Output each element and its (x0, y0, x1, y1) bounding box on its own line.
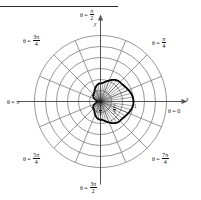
y-axis-label: y (94, 21, 96, 27)
polar-figure: θ = 0 θ = π4 θ = π2 θ = 3π4 θ = π θ = 5π… (0, 0, 201, 200)
radial-label-two-thirds: 23 (112, 104, 117, 116)
angle-label-theta-pi-4: θ = π4 (152, 36, 166, 49)
radial-label-one-third: 13 (98, 105, 103, 117)
angle-label-theta-3pi-4: θ = 3π4 (23, 34, 40, 47)
angle-label-theta-0: θ = 0 (168, 108, 180, 114)
angle-label-theta-pi: θ = π (7, 99, 19, 105)
radial-label-one: 1 (134, 104, 137, 109)
angle-label-theta-7pi-4: θ = 7π4 (152, 152, 169, 165)
polar-plot-canvas (0, 0, 201, 200)
x-axis-label: x (186, 96, 188, 102)
top-rule (0, 6, 118, 7)
angle-label-theta-3pi-2: θ = 3π2 (80, 181, 97, 194)
angle-label-theta-pi-2: θ = π2 (80, 8, 94, 21)
angle-label-theta-5pi-4: θ = 5π4 (23, 152, 40, 165)
